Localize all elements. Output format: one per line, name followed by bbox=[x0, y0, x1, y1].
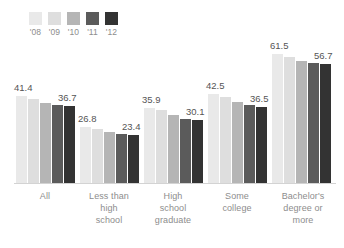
bar[interactable] bbox=[244, 105, 255, 184]
bar-value-label-first: 35.9 bbox=[142, 94, 161, 105]
plot-area: 41.436.726.823.435.930.142.536.561.556.7 bbox=[0, 0, 344, 184]
category-label: Less thanhighschool bbox=[72, 190, 146, 226]
bar[interactable] bbox=[272, 54, 283, 184]
category-label-line: high bbox=[72, 202, 146, 214]
category-label: All bbox=[8, 190, 82, 202]
bar[interactable] bbox=[64, 106, 75, 184]
bar[interactable] bbox=[92, 129, 103, 184]
category-label-line: Bachelor's bbox=[264, 190, 342, 202]
bar[interactable] bbox=[104, 132, 115, 184]
bar[interactable] bbox=[208, 94, 219, 184]
bar-value-label-last: 36.5 bbox=[250, 93, 269, 104]
bar[interactable] bbox=[144, 108, 155, 184]
bar[interactable] bbox=[168, 115, 179, 184]
bar[interactable] bbox=[16, 96, 27, 184]
bar[interactable] bbox=[52, 105, 63, 184]
category-label-line: more bbox=[264, 214, 342, 226]
bar[interactable] bbox=[40, 103, 51, 184]
bar-value-label-first: 61.5 bbox=[270, 40, 289, 51]
category-label-line: High bbox=[136, 190, 210, 202]
category-label: Highschoolgraduate bbox=[136, 190, 210, 226]
category-label-line: degree or bbox=[264, 202, 342, 214]
bar-group-bars bbox=[144, 0, 203, 184]
bar-value-label-first: 42.5 bbox=[206, 80, 225, 91]
category-label-line: graduate bbox=[136, 214, 210, 226]
bar-value-label-last: 56.7 bbox=[314, 50, 333, 61]
bar-chart: '08'09'10'11'12 41.436.726.823.435.930.1… bbox=[0, 0, 344, 248]
bar[interactable] bbox=[256, 107, 267, 184]
bar[interactable] bbox=[128, 135, 139, 184]
bar[interactable] bbox=[80, 127, 91, 184]
bar-value-label-last: 36.7 bbox=[58, 92, 77, 103]
bar-group-bars bbox=[80, 0, 139, 184]
bar[interactable] bbox=[116, 134, 127, 184]
bar[interactable] bbox=[180, 119, 191, 184]
bar[interactable] bbox=[156, 110, 167, 184]
category-label: Somecollege bbox=[200, 190, 274, 214]
bar-value-label-first: 26.8 bbox=[78, 113, 97, 124]
bar-value-label-last: 23.4 bbox=[122, 121, 141, 132]
category-axis-labels: AllLess thanhighschoolHighschoolgraduate… bbox=[0, 190, 344, 248]
category-label: Bachelor'sdegree ormore bbox=[264, 190, 342, 226]
bar-value-label-last: 30.1 bbox=[186, 106, 205, 117]
bar[interactable] bbox=[28, 99, 39, 184]
bar[interactable] bbox=[296, 61, 307, 184]
category-label-line: Less than bbox=[72, 190, 146, 202]
bar-group-bars bbox=[208, 0, 267, 184]
category-label-line: school bbox=[72, 214, 146, 226]
bar[interactable] bbox=[220, 97, 231, 184]
bar[interactable] bbox=[232, 102, 243, 184]
category-label-line: All bbox=[8, 190, 82, 202]
bar[interactable] bbox=[308, 63, 319, 184]
bar[interactable] bbox=[284, 57, 295, 184]
bar[interactable] bbox=[192, 120, 203, 184]
bar[interactable] bbox=[320, 64, 331, 184]
category-label-line: Some bbox=[200, 190, 274, 202]
category-label-line: college bbox=[200, 202, 274, 214]
category-label-line: school bbox=[136, 202, 210, 214]
bar-group-bars bbox=[272, 0, 331, 184]
axis-baseline bbox=[14, 183, 336, 184]
bar-value-label-first: 41.4 bbox=[14, 82, 33, 93]
